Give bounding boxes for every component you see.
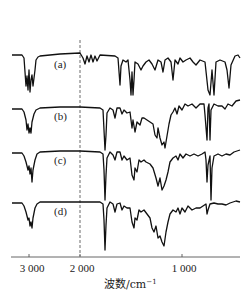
- x-axis-title-main: 波数/cm: [104, 278, 147, 291]
- ir-spectra-chart: (a) (b) (c) (d) 3 000 2 000 1 000 波数/cm−…: [0, 0, 250, 300]
- series-label-c: (c): [54, 154, 67, 167]
- spectrum-a: [12, 53, 240, 95]
- x-axis-title: 波数/cm−1: [104, 278, 157, 291]
- x-tick-label-2000: 2 000: [70, 262, 95, 274]
- series-label-a: (a): [54, 58, 67, 71]
- spectrum-d: [12, 201, 240, 250]
- x-tick-label-1000: 1 000: [172, 262, 197, 274]
- series-label-b: (b): [54, 110, 67, 123]
- series-label-d: (d): [54, 205, 67, 218]
- spectrum-b: [12, 100, 240, 150]
- spectrum-c: [12, 150, 240, 200]
- x-axis-title-superscript: −1: [146, 278, 156, 286]
- x-tick-label-3000: 3 000: [20, 262, 45, 274]
